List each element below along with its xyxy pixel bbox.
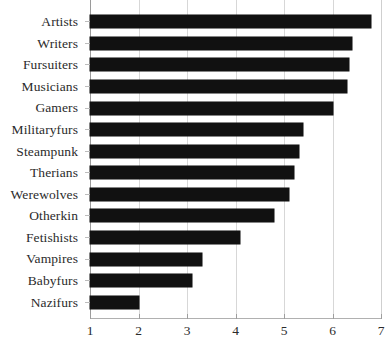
y-axis-label: Steampunk xyxy=(0,140,84,162)
x-axis-tick-label: 7 xyxy=(368,324,391,338)
y-axis-tick xyxy=(85,21,90,22)
y-axis-tick xyxy=(85,129,90,130)
bar-row xyxy=(90,11,381,33)
bar-chart: ArtistsWritersFursuitersMusiciansGamersM… xyxy=(0,0,391,351)
x-axis-tick-label: 2 xyxy=(126,324,152,338)
y-axis-label: Vampires xyxy=(0,248,84,270)
bar-row xyxy=(90,76,381,98)
bar xyxy=(90,253,202,266)
y-axis-label: Fetishists xyxy=(0,227,84,249)
x-axis-tick xyxy=(236,314,237,319)
y-axis-tick xyxy=(85,108,90,109)
bar-row xyxy=(90,97,381,119)
x-axis-tick xyxy=(284,314,285,319)
y-axis-label: Artists xyxy=(0,11,84,33)
bar xyxy=(90,296,139,309)
bar xyxy=(90,209,274,222)
bar-row xyxy=(90,140,381,162)
bar-row xyxy=(90,292,381,314)
y-axis-label: Therians xyxy=(0,162,84,184)
x-axis-tick xyxy=(187,314,188,319)
gridline xyxy=(381,0,382,318)
bar xyxy=(90,58,349,71)
x-axis-tick-label: 3 xyxy=(174,324,200,338)
y-axis-tick xyxy=(85,302,90,303)
x-axis-tick-label: 6 xyxy=(320,324,346,338)
y-axis-label: Musicians xyxy=(0,76,84,98)
y-axis-tick xyxy=(85,280,90,281)
bar-row xyxy=(90,248,381,270)
y-axis-label: Gamers xyxy=(0,97,84,119)
x-axis-tick-label: 5 xyxy=(271,324,297,338)
y-axis-label: Militaryfurs xyxy=(0,119,84,141)
y-axis-tick xyxy=(85,151,90,152)
bar xyxy=(90,231,240,244)
x-axis-tick xyxy=(90,314,91,319)
bar-row xyxy=(90,33,381,55)
y-axis-tick xyxy=(85,86,90,87)
bar-row xyxy=(90,205,381,227)
bar xyxy=(90,102,333,115)
x-axis-tick xyxy=(333,314,334,319)
y-axis-tick xyxy=(85,237,90,238)
bar xyxy=(90,123,303,136)
x-axis-tick xyxy=(381,314,382,319)
bar-row xyxy=(90,162,381,184)
bar xyxy=(90,145,299,158)
y-axis-tick xyxy=(85,64,90,65)
bar-row xyxy=(90,54,381,76)
x-axis-tick-label: 4 xyxy=(223,324,249,338)
bar-series xyxy=(90,11,381,313)
y-axis-label: Babyfurs xyxy=(0,270,84,292)
y-axis-tick xyxy=(85,43,90,44)
y-axis-label: Nazifurs xyxy=(0,292,84,314)
bar xyxy=(90,166,294,179)
y-axis-tick xyxy=(85,259,90,260)
bar-row xyxy=(90,227,381,249)
x-axis-tick xyxy=(139,314,140,319)
y-axis-label: Werewolves xyxy=(0,184,84,206)
bar xyxy=(90,37,352,50)
y-axis-tick xyxy=(85,215,90,216)
y-axis-label: Writers xyxy=(0,33,84,55)
y-axis-labels: ArtistsWritersFursuitersMusiciansGamersM… xyxy=(0,11,84,313)
x-axis-tick-label: 1 xyxy=(77,324,103,338)
bar-row xyxy=(90,184,381,206)
y-axis-tick xyxy=(85,194,90,195)
y-axis-label: Otherkin xyxy=(0,205,84,227)
bar xyxy=(90,188,289,201)
x-axis: 1234567 xyxy=(90,318,381,351)
bar-row xyxy=(90,270,381,292)
bar xyxy=(90,15,371,28)
y-axis-tick xyxy=(85,172,90,173)
y-axis-label: Fursuiters xyxy=(0,54,84,76)
bar xyxy=(90,274,192,287)
bar-row xyxy=(90,119,381,141)
plot-area xyxy=(90,0,381,318)
bar xyxy=(90,80,347,93)
